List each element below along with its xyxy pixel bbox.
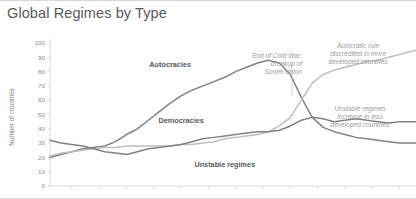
y-tick-label: 20 (38, 154, 45, 161)
y-tick-label: 0 (42, 182, 46, 189)
unstable-regimes-annotation: Unstable regimesincrease in lessdevelope… (330, 105, 390, 129)
series-label-unstable-regimes: Unstable regimes (194, 160, 255, 169)
cold-war-annotation: End of Cold War;breakup ofSoviet Union (252, 52, 303, 75)
y-tick-label: 50 (38, 111, 45, 118)
series-line-democracies (50, 50, 416, 156)
y-tick-label: 60 (38, 96, 45, 103)
y-tick-label: 10 (38, 168, 45, 175)
y-axis: 0102030405060708090100 (35, 39, 50, 189)
y-tick-label: 40 (38, 125, 45, 132)
chart-plot-area: 0102030405060708090100 AutocraciesDemocr… (0, 22, 416, 198)
series-labels: AutocraciesDemocraciesUnstable regimes (149, 60, 255, 169)
top-divider (0, 0, 416, 1)
annotations: End of Cold War;breakup ofSoviet UnionAu… (252, 42, 390, 129)
series-label-autocracies: Autocracies (149, 60, 191, 69)
y-tick-label: 100 (35, 39, 46, 46)
y-tick-label: 90 (38, 54, 45, 61)
y-tick-label: 70 (38, 82, 45, 89)
series-lines (50, 50, 416, 157)
line-chart-svg: 0102030405060708090100 AutocraciesDemocr… (0, 22, 416, 198)
y-tick-label: 30 (38, 139, 45, 146)
y-axis-title: Number of countries (8, 88, 15, 146)
x-axis (50, 186, 416, 189)
chart-container: Global Regimes by Type 01020304050607080… (0, 0, 416, 199)
y-tick-label: 80 (38, 68, 45, 75)
series-label-democracies: Democracies (158, 116, 203, 125)
page-title: Global Regimes by Type (7, 5, 167, 21)
bottom-divider (0, 198, 416, 199)
autocratic-rule-annotation: Autocratic rulediscredited in moredevelo… (328, 42, 388, 66)
